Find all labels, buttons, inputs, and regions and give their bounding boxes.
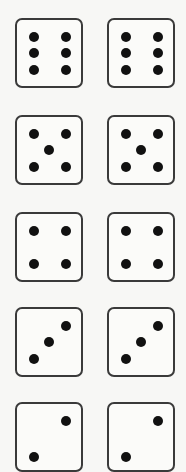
pip-icon	[61, 32, 71, 42]
pip-icon	[121, 65, 131, 75]
die-face-6	[15, 18, 83, 88]
pip-icon	[44, 337, 54, 347]
pip-icon	[121, 354, 131, 364]
die-face-4	[15, 212, 83, 282]
pip-icon	[153, 65, 163, 75]
pip-icon	[153, 416, 163, 426]
pip-icon	[61, 226, 71, 236]
pip-icon	[61, 416, 71, 426]
pip-icon	[121, 226, 131, 236]
pip-icon	[61, 129, 71, 139]
pip-icon	[153, 321, 163, 331]
pip-icon	[121, 259, 131, 269]
pip-icon	[153, 259, 163, 269]
pip-icon	[136, 337, 146, 347]
die-face-3	[107, 307, 175, 377]
pip-icon	[153, 48, 163, 58]
pip-icon	[29, 226, 39, 236]
pip-icon	[153, 226, 163, 236]
die-face-6	[107, 18, 175, 88]
pip-icon	[153, 129, 163, 139]
pip-icon	[121, 452, 131, 462]
pip-icon	[121, 129, 131, 139]
pip-icon	[61, 321, 71, 331]
pip-icon	[61, 259, 71, 269]
pip-icon	[61, 48, 71, 58]
pip-icon	[29, 354, 39, 364]
die-face-3	[15, 307, 83, 377]
pip-icon	[29, 65, 39, 75]
pip-icon	[29, 452, 39, 462]
pip-icon	[153, 162, 163, 172]
pip-icon	[61, 162, 71, 172]
pip-icon	[153, 32, 163, 42]
pip-icon	[121, 32, 131, 42]
pip-icon	[29, 32, 39, 42]
die-face-2	[15, 402, 83, 472]
pip-icon	[61, 65, 71, 75]
die-face-5	[107, 115, 175, 185]
die-face-2	[107, 402, 175, 472]
pip-icon	[136, 145, 146, 155]
pip-icon	[121, 162, 131, 172]
die-face-5	[15, 115, 83, 185]
pip-icon	[29, 162, 39, 172]
pip-icon	[29, 129, 39, 139]
pip-icon	[121, 48, 131, 58]
pip-icon	[29, 48, 39, 58]
pip-icon	[44, 145, 54, 155]
pip-icon	[29, 259, 39, 269]
die-face-4	[107, 212, 175, 282]
